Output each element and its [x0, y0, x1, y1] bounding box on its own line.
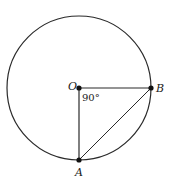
label-B: B [155, 82, 164, 95]
label-A: A [74, 166, 83, 179]
circle-diagram: O B A 90° [0, 0, 172, 185]
point-B [148, 85, 153, 90]
label-O: O [68, 80, 77, 93]
point-O [76, 85, 81, 90]
angle-label: 90° [82, 92, 100, 103]
point-A [76, 157, 81, 162]
